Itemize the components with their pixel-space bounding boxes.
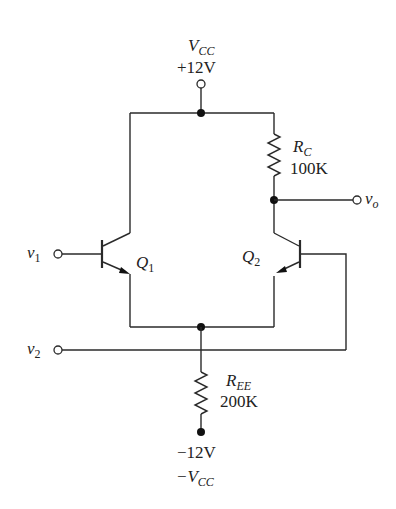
- ree-value: 200K: [220, 393, 258, 410]
- v2-label: v2: [27, 340, 41, 357]
- rc-label: RC: [293, 138, 311, 155]
- vee-node: [197, 428, 205, 436]
- v2-subscript: 2: [35, 347, 41, 361]
- vcc-label: VCC: [188, 37, 214, 54]
- vcc-subscript: CC: [198, 44, 214, 58]
- vcc-symbol: V: [188, 36, 198, 55]
- vee-symbol: −V: [176, 467, 198, 486]
- q1-transistor: [62, 233, 130, 327]
- rc-subscript: C: [303, 145, 311, 159]
- v1-label: v1: [27, 244, 41, 261]
- ree-subscript: EE: [236, 379, 251, 393]
- q2-transistor: [274, 233, 346, 350]
- vee-value: −12V: [177, 444, 216, 461]
- vee-subscript: CC: [198, 475, 214, 489]
- vee-label: −VCC: [176, 468, 214, 485]
- q2-subscript: 2: [254, 255, 260, 269]
- vo-label: vo: [365, 190, 379, 207]
- rc-value: 100K: [290, 160, 328, 177]
- ree-label: REE: [226, 372, 251, 389]
- vo-subscript: o: [373, 197, 379, 211]
- ree-resistor: [195, 372, 207, 414]
- v1-subscript: 1: [35, 251, 41, 265]
- q1-symbol: Q: [136, 253, 148, 272]
- rc-symbol: R: [293, 137, 303, 156]
- q1-subscript: 1: [148, 261, 154, 275]
- ree-symbol: R: [226, 371, 236, 390]
- q2-symbol: Q: [242, 247, 254, 266]
- q1-label: Q1: [136, 254, 154, 271]
- vo-terminal[interactable]: [353, 196, 361, 204]
- vo-symbol: v: [365, 189, 373, 208]
- vcc-value: +12V: [177, 59, 216, 76]
- v1-symbol: v: [27, 243, 35, 262]
- rc-resistor: [268, 134, 280, 176]
- v1-terminal[interactable]: [54, 250, 62, 258]
- v2-terminal[interactable]: [54, 346, 62, 354]
- v2-symbol: v: [27, 339, 35, 358]
- q2-label: Q2: [242, 248, 260, 265]
- vcc-terminal: [197, 80, 205, 88]
- top-junction-node: [197, 109, 205, 117]
